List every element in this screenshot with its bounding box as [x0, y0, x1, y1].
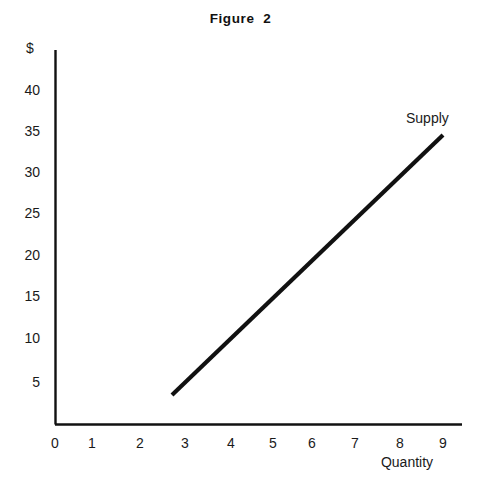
- y-tick-35: 35: [0, 123, 40, 139]
- x-tick-3: 3: [173, 435, 197, 451]
- supply-series-label: Supply: [406, 110, 449, 126]
- x-tick-0: 0: [43, 435, 67, 451]
- y-tick-5: 5: [0, 374, 40, 390]
- plot-area: [0, 0, 481, 490]
- x-tick-4: 4: [219, 435, 243, 451]
- y-tick-40: 40: [0, 82, 40, 98]
- x-tick-5: 5: [261, 435, 285, 451]
- y-tick-20: 20: [0, 247, 40, 263]
- x-tick-2: 2: [128, 435, 152, 451]
- x-tick-9: 9: [431, 435, 455, 451]
- x-tick-8: 8: [388, 435, 412, 451]
- figure-container: Figure 2 $ 40 35 30 25 20 15 10 5 0 1 2 …: [0, 0, 481, 490]
- supply-curve: [172, 135, 443, 395]
- y-tick-25: 25: [0, 205, 40, 221]
- x-tick-1: 1: [80, 435, 104, 451]
- x-tick-6: 6: [300, 435, 324, 451]
- y-tick-15: 15: [0, 288, 40, 304]
- y-axis-unit-label: $: [20, 40, 40, 56]
- y-tick-10: 10: [0, 330, 40, 346]
- x-tick-7: 7: [343, 435, 367, 451]
- y-tick-30: 30: [0, 164, 40, 180]
- x-axis-title: Quantity: [347, 454, 467, 470]
